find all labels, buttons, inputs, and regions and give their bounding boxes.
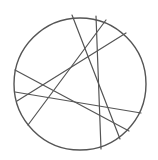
chord-4 <box>17 33 126 101</box>
chord-6 <box>15 92 141 113</box>
chord-5 <box>15 70 129 131</box>
chord-2 <box>96 16 101 149</box>
circle-outline <box>14 18 146 150</box>
chords-group <box>15 15 141 149</box>
circle-chords-diagram <box>0 0 158 160</box>
